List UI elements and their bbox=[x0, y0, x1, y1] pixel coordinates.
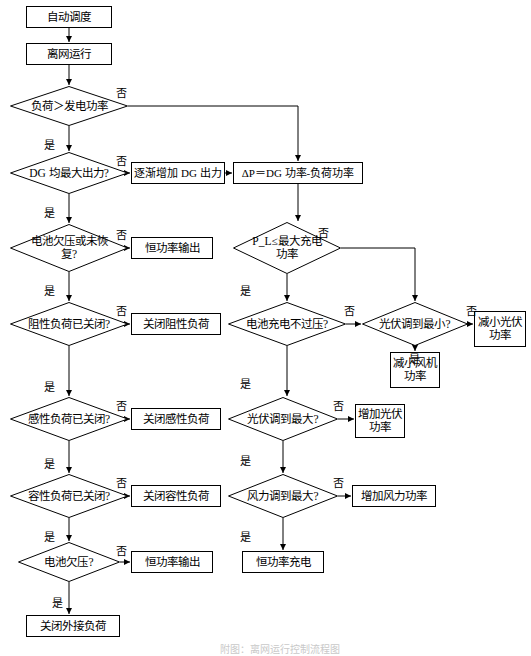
node-turn-off-resistive-load[interactable]: 关闭阻性负荷 bbox=[131, 313, 221, 335]
edge-label-yes-3: 是 bbox=[44, 282, 55, 298]
node-battery-charge-not-overvoltage[interactable]: 电池充电不过压? bbox=[228, 302, 346, 346]
node-constant-power-output-1[interactable]: 恒功率输出 bbox=[131, 237, 213, 259]
node-inductive-load-off[interactable]: 感性负荷已关闭? bbox=[10, 397, 128, 441]
edge-label-no-3: 否 bbox=[116, 226, 127, 242]
node-label: 负荷＞发电功率 bbox=[10, 86, 128, 126]
edge-label-no-2: 否 bbox=[116, 152, 127, 168]
edge-label-yes-5: 是 bbox=[409, 350, 420, 366]
node-turn-off-external-load[interactable]: 关闭外接负荷 bbox=[26, 615, 120, 637]
edge-label-yes-12: 是 bbox=[52, 594, 63, 610]
node-label: DG 均最大出力? bbox=[10, 152, 128, 194]
node-turn-off-inductive-load[interactable]: 关闭感性负荷 bbox=[131, 408, 221, 430]
node-pv-at-maximum[interactable]: 光伏调到最大? bbox=[228, 397, 338, 441]
node-label: 电池欠压或未恢复? bbox=[10, 224, 128, 272]
node-capacitive-load-off[interactable]: 容性负荷已关闭? bbox=[10, 474, 128, 518]
node-increase-dg-output[interactable]: 逐渐增加 DG 出力 bbox=[131, 162, 225, 184]
node-label: 容性负荷已关闭? bbox=[10, 474, 128, 518]
edge-label-no-10: 否 bbox=[116, 474, 127, 490]
node-auto-dispatch[interactable]: 自动调度 bbox=[26, 6, 112, 28]
figure-caption: 附图：离网运行控制流程图 bbox=[150, 641, 410, 656]
node-dg-max-output[interactable]: DG 均最大出力? bbox=[10, 152, 128, 194]
edge-label-yes-6: 是 bbox=[44, 378, 55, 394]
edge-label-yes-7: 是 bbox=[240, 375, 251, 391]
node-offgrid-operation[interactable]: 离网运行 bbox=[26, 43, 112, 65]
edge-label-yes-9: 是 bbox=[240, 452, 251, 468]
edge-label-no-12: 否 bbox=[116, 542, 127, 558]
node-battery-undervoltage-or-not-recovered[interactable]: 电池欠压或未恢复? bbox=[10, 224, 128, 272]
node-constant-power-charge[interactable]: 恒功率充电 bbox=[242, 551, 324, 573]
node-label: 风力调到最大? bbox=[228, 474, 338, 518]
edge-label-yes-4: 是 bbox=[240, 282, 251, 298]
edge-label-no-1: 否 bbox=[116, 84, 127, 100]
edge-label-no-4: 否 bbox=[318, 224, 329, 240]
edge-label-no-5: 否 bbox=[116, 302, 127, 318]
node-load-gt-generation[interactable]: 负荷＞发电功率 bbox=[10, 86, 128, 126]
edge-label-no-9: 否 bbox=[333, 397, 344, 413]
node-label: 感性负荷已关闭? bbox=[10, 397, 128, 441]
edge-label-no-6: 否 bbox=[344, 302, 355, 318]
edge-label-yes-10: 是 bbox=[44, 528, 55, 544]
node-wind-at-maximum[interactable]: 风力调到最大? bbox=[228, 474, 338, 518]
node-label: 电池充电不过压? bbox=[228, 302, 346, 346]
edge-label-no-8: 否 bbox=[116, 397, 127, 413]
edge-label-yes-2: 是 bbox=[44, 204, 55, 220]
node-resistive-load-off[interactable]: 阻性负荷已关闭? bbox=[10, 302, 128, 346]
node-turn-off-capacitive-load[interactable]: 关闭容性负荷 bbox=[131, 485, 221, 507]
node-label: 光伏调到最大? bbox=[228, 397, 338, 441]
node-battery-undervoltage[interactable]: 电池欠压? bbox=[18, 542, 120, 582]
edge-label-yes-11: 是 bbox=[240, 528, 251, 544]
node-label: 电池欠压? bbox=[18, 542, 120, 582]
node-increase-wind-power[interactable]: 增加风力功率 bbox=[352, 485, 436, 507]
node-pv-at-minimum[interactable]: 光伏调到最小? bbox=[362, 302, 468, 346]
edge-label-no-11: 否 bbox=[333, 474, 344, 490]
edge-label-yes-8: 是 bbox=[44, 455, 55, 471]
node-constant-power-output-2[interactable]: 恒功率输出 bbox=[131, 551, 213, 573]
node-reduce-pv-power[interactable]: 减小光伏功率 bbox=[474, 311, 526, 347]
node-delta-p-formula[interactable]: ΔP＝DG 功率-负荷功率 bbox=[233, 162, 363, 184]
node-increase-pv-power[interactable]: 增加光伏功率 bbox=[355, 404, 405, 438]
node-label: 光伏调到最小? bbox=[362, 302, 468, 346]
edge-label-yes-1: 是 bbox=[44, 136, 55, 152]
node-label: 阻性负荷已关闭? bbox=[10, 302, 128, 346]
edge-label-no-7: 否 bbox=[466, 302, 477, 318]
